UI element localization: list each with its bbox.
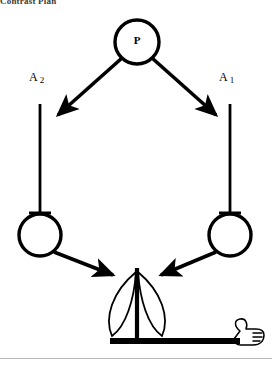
diagram-svg bbox=[0, 0, 272, 371]
edge-p-to-a1 bbox=[152, 58, 216, 115]
label-a2-subscript: 2 bbox=[38, 75, 45, 85]
bottom-divider bbox=[0, 358, 272, 359]
plant-leaf-right bbox=[138, 272, 165, 336]
edge-p-to-a2 bbox=[58, 58, 122, 115]
label-a2-base: A bbox=[29, 70, 38, 84]
label-a2: A2 bbox=[29, 70, 44, 85]
node-left-circle bbox=[19, 214, 61, 256]
plant-leaf-left bbox=[109, 272, 136, 336]
label-a1-base: A bbox=[219, 70, 228, 84]
node-p-label: P bbox=[131, 34, 143, 46]
label-a1-subscript: 1 bbox=[228, 75, 235, 85]
label-a1: A1 bbox=[219, 70, 234, 85]
figure-canvas: Contrast Plan bbox=[0, 0, 272, 371]
node-right-circle bbox=[209, 214, 251, 256]
edge-left-to-plant bbox=[54, 252, 113, 275]
edge-right-to-plant bbox=[161, 252, 216, 275]
